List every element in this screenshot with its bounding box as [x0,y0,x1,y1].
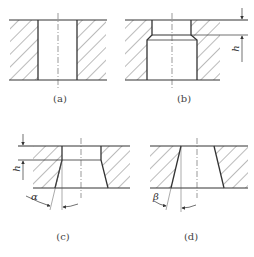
angle-arc-alpha [26,196,50,206]
caption-b: (b) [177,93,191,104]
dimension-label-h-c: h [11,165,22,171]
caption-d: (d) [184,231,198,242]
hatched-block-left [125,20,152,80]
hatched-block-right [191,20,220,80]
hatched-block-left [10,20,38,80]
angle-label-alpha: α [31,191,38,202]
caption-a: (a) [53,93,67,104]
die-hole-diagram [0,0,254,257]
hatched-block-right [77,20,106,80]
angle-label-beta: β [153,191,159,202]
figure-d [150,138,248,212]
figure-a [9,13,107,88]
hatched-block-left [33,146,62,188]
hatched-block-right [101,146,130,188]
dimension-label-h-b: h [230,45,241,51]
caption-c: (c) [56,231,69,242]
